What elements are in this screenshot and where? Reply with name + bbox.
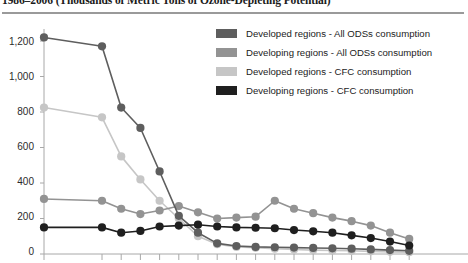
- plot-area: 1,200 1,000 800 600 400 200 0: [0, 0, 468, 263]
- chart-canvas: [0, 0, 468, 263]
- chart-figure: 1986–2006 (Thousands of Metric Tons of O…: [0, 0, 468, 263]
